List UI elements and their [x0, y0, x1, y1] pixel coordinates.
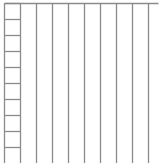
ladder-rungs [5, 4, 21, 148]
grid-diagram [0, 0, 161, 163]
vertical-lines [5, 4, 149, 164]
